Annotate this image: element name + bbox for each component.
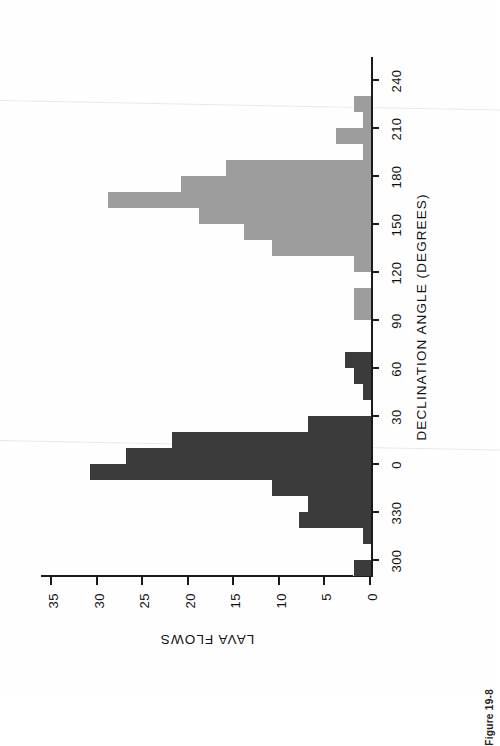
x-tick-210 xyxy=(372,127,379,129)
bar-10deg xyxy=(125,449,371,465)
y-tick-label-10: 10 xyxy=(273,593,288,608)
x-tick-150 xyxy=(372,223,379,225)
y-tick-label-35: 35 xyxy=(46,593,61,608)
bar-50deg xyxy=(362,385,371,401)
chart-plot-area: 3003300306090120150180210240 05101520253… xyxy=(41,57,373,577)
bar-110deg xyxy=(353,289,371,305)
figure-caption: Figure 19-8 xyxy=(484,689,495,746)
y-tick-label-15: 15 xyxy=(228,593,243,608)
bar-220deg xyxy=(362,113,371,129)
y-tick-15 xyxy=(232,576,234,585)
x-tick-90 xyxy=(372,319,379,321)
bar-30deg xyxy=(307,417,371,433)
x-tick-label-60: 60 xyxy=(389,361,404,376)
x-tick-label-0: 0 xyxy=(389,461,404,469)
y-tick-0 xyxy=(369,576,371,585)
x-tick-label-180: 180 xyxy=(389,165,404,188)
x-tick-330 xyxy=(372,511,379,513)
bar-190deg xyxy=(225,161,371,177)
x-tick-label-330: 330 xyxy=(389,501,404,524)
bar-100deg xyxy=(353,305,371,321)
x-tick-60 xyxy=(372,367,379,369)
y-axis-title: LAVA FLOWS xyxy=(160,632,255,647)
x-tick-120 xyxy=(372,271,379,273)
x-tick-label-90: 90 xyxy=(389,313,404,328)
y-tick-label-20: 20 xyxy=(182,593,197,608)
y-tick-20 xyxy=(187,576,189,585)
y-tick-label-30: 30 xyxy=(91,593,106,608)
bar-180deg xyxy=(180,177,371,193)
x-tick-30 xyxy=(372,415,379,417)
x-tick-label-300: 300 xyxy=(389,549,404,572)
y-tick-5 xyxy=(323,576,325,585)
bar-0deg xyxy=(89,465,371,481)
x-axis-line xyxy=(371,57,373,577)
y-tick-label-0: 0 xyxy=(365,593,380,601)
bar-130deg xyxy=(353,257,371,273)
x-tick-label-240: 240 xyxy=(389,69,404,92)
y-tick-10 xyxy=(278,576,280,585)
x-tick-label-30: 30 xyxy=(389,409,404,424)
x-tick-0 xyxy=(372,463,379,465)
y-tick-30 xyxy=(96,576,98,585)
bar-230deg xyxy=(353,97,371,113)
bar-340deg xyxy=(307,497,371,513)
x-tick-label-120: 120 xyxy=(389,261,404,284)
x-tick-label-210: 210 xyxy=(389,117,404,140)
bar-300deg xyxy=(353,561,371,577)
bar-70deg xyxy=(344,353,371,369)
bar-350deg xyxy=(271,481,371,497)
bar-170deg xyxy=(107,193,371,209)
bar-210deg xyxy=(335,129,371,145)
y-tick-label-5: 5 xyxy=(319,593,334,601)
y-tick-35 xyxy=(50,576,52,585)
y-tick-label-25: 25 xyxy=(137,593,152,608)
bar-150deg xyxy=(243,225,371,241)
bar-140deg xyxy=(271,241,371,257)
y-tick-25 xyxy=(141,576,143,585)
bar-20deg xyxy=(171,433,371,449)
bar-200deg xyxy=(362,145,371,161)
x-tick-label-150: 150 xyxy=(389,213,404,236)
bar-330deg xyxy=(298,513,371,529)
x-tick-240 xyxy=(372,79,379,81)
bar-60deg xyxy=(353,369,371,385)
bar-160deg xyxy=(198,209,371,225)
x-axis-title: DECLINATION ANGLE (DEGREES) xyxy=(414,194,429,441)
bar-320deg xyxy=(362,529,371,545)
x-tick-300 xyxy=(372,559,379,561)
figure-rotated-container: 3003300306090120150180210240 05101520253… xyxy=(23,23,453,663)
x-tick-180 xyxy=(372,175,379,177)
